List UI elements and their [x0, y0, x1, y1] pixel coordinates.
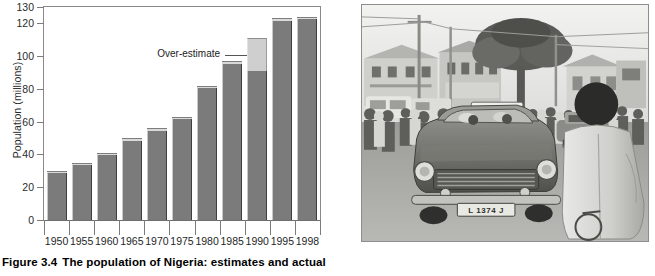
- x-axis-label-1965: 1965: [119, 235, 144, 247]
- y-axis-tick: 20: [37, 187, 44, 188]
- population-bar-chart: Population (millions) 020406080100120130…: [0, 0, 340, 252]
- x-axis-tick: [270, 220, 271, 235]
- y-axis-tick-label: 130: [16, 1, 34, 13]
- y-axis-tick-label: 60: [22, 116, 34, 128]
- bar-1990[interactable]: [247, 38, 267, 220]
- bar-actual-1955: [72, 163, 92, 220]
- x-axis-tick: [119, 220, 120, 235]
- x-axis-label-1950: 1950: [44, 235, 69, 247]
- bar-top-highlight-1975: [172, 117, 192, 120]
- bar-actual-1950: [47, 171, 67, 220]
- x-axis-tick: [295, 220, 296, 235]
- x-axis-label-1980: 1980: [195, 235, 220, 247]
- x-axis-label-1955: 1955: [69, 235, 94, 247]
- y-axis-tick: 60: [37, 122, 44, 123]
- x-axis-tick: [320, 220, 321, 235]
- bar-top-highlight-1985: [222, 61, 242, 64]
- figure-caption-number: Figure 3.4: [2, 256, 57, 268]
- x-axis-tick: [44, 220, 45, 235]
- bar-1985[interactable]: [222, 61, 242, 220]
- y-axis-tick-label: 120: [16, 17, 34, 29]
- y-axis-title: Population (millions): [11, 50, 23, 170]
- bar-1998[interactable]: [297, 17, 317, 220]
- y-axis-tick: 0: [37, 220, 44, 221]
- bar-actual-1980: [197, 86, 217, 220]
- figure-caption: Figure 3.4The population of Nigeria: est…: [2, 256, 326, 268]
- x-axis-tick: [69, 220, 70, 235]
- bar-over-estimate-1990: [247, 38, 267, 71]
- x-axis-tick: [220, 220, 221, 235]
- x-axis-tick: [195, 220, 196, 235]
- y-axis-tick: 130: [37, 7, 44, 8]
- bar-1970[interactable]: [147, 128, 167, 220]
- bar-1975[interactable]: [172, 117, 192, 220]
- y-axis-tick: 40: [37, 154, 44, 155]
- y-axis-tick-label: 40: [22, 148, 34, 160]
- bar-actual-1960: [97, 153, 117, 220]
- x-axis-tick: [144, 220, 145, 235]
- nigeria-street-scene-photo: TAXI: [361, 4, 649, 242]
- y-axis-tick-label: 100: [16, 50, 34, 62]
- bar-top-highlight-1950: [47, 171, 67, 174]
- bar-1950[interactable]: [47, 171, 67, 220]
- x-axis-label-1985: 1985: [220, 235, 245, 247]
- bar-1965[interactable]: [122, 138, 142, 220]
- bar-top-highlight-1998: [297, 17, 317, 20]
- x-axis-label-1970: 1970: [144, 235, 169, 247]
- bar-actual-1970: [147, 128, 167, 220]
- figure-caption-text: The population of Nigeria: estimates and…: [62, 256, 326, 268]
- photo-image: TAXI: [362, 5, 648, 241]
- x-axis-label-1990: 1990: [245, 235, 270, 247]
- bar-actual-1998: [297, 17, 317, 220]
- bar-top-highlight-1980: [197, 86, 217, 89]
- bar-1960[interactable]: [97, 153, 117, 220]
- y-axis-tick: 80: [37, 89, 44, 90]
- y-axis-tick-label: 80: [22, 83, 34, 95]
- bar-actual-1975: [172, 117, 192, 220]
- y-axis-tick: 100: [37, 56, 44, 57]
- bar-actual-1995: [272, 18, 292, 220]
- bar-1955[interactable]: [72, 163, 92, 220]
- bar-actual-1985: [222, 61, 242, 220]
- svg-text:L 1374 J: L 1374 J: [468, 206, 504, 215]
- figure-3-4: Population (millions) 020406080100120130…: [0, 0, 655, 276]
- y-axis-tick-label: 20: [22, 181, 34, 193]
- x-axis-label-1960: 1960: [94, 235, 119, 247]
- x-axis-tick: [169, 220, 170, 235]
- bars-layer: [44, 7, 320, 220]
- bar-actual-1990: [247, 71, 267, 220]
- x-axis-label-1998: 1998: [295, 235, 320, 247]
- bar-1980[interactable]: [197, 86, 217, 220]
- y-axis-tick-label: 0: [28, 214, 34, 226]
- bar-top-highlight-1995: [272, 18, 292, 21]
- x-axis-tick: [245, 220, 246, 235]
- bar-top-highlight-1955: [72, 163, 92, 166]
- x-axis-label-1995: 1995: [270, 235, 295, 247]
- bar-top-highlight-1960: [97, 153, 117, 156]
- bar-top-highlight-1965: [122, 138, 142, 141]
- bar-actual-1965: [122, 138, 142, 220]
- plot-area: 020406080100120130 195019551960196519701…: [43, 6, 321, 221]
- bar-top-highlight-1970: [147, 128, 167, 131]
- x-axis-label-1975: 1975: [169, 235, 194, 247]
- y-axis-tick: 120: [37, 23, 44, 24]
- x-axis-tick: [94, 220, 95, 235]
- bar-1995[interactable]: [272, 18, 292, 220]
